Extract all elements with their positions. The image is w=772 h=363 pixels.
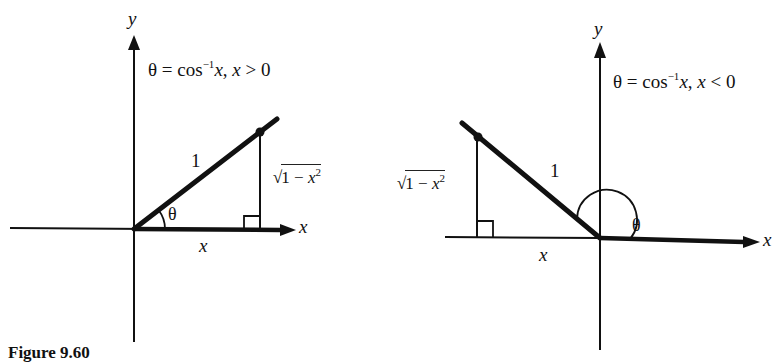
- right-x-axis: [445, 237, 600, 238]
- left-panel: [10, 35, 296, 342]
- right-y-axis-arrow-icon: [594, 42, 606, 58]
- right-angle-label: θ: [632, 215, 641, 236]
- left-x-axis-arrow-icon: [280, 224, 296, 236]
- eq-cond-var: x: [232, 59, 240, 80]
- left-adjacent-side: [134, 229, 280, 230]
- right-x-axis-arrow-icon: [743, 236, 760, 248]
- left-right-angle-marker: [244, 216, 260, 229]
- eq-cond: < 0: [706, 71, 736, 92]
- left-angle-arc: [159, 210, 166, 229]
- right-hypotenuse-label: 1: [550, 160, 560, 182]
- eq-arg: x: [214, 59, 222, 80]
- right-angle-arc: [577, 190, 637, 239]
- left-hypotenuse: [134, 119, 277, 229]
- right-adjacent-label: x: [539, 244, 547, 266]
- right-y-axis-label: y: [594, 18, 602, 40]
- eq-cond: > 0: [241, 59, 271, 80]
- radicand-body: 1 −: [281, 168, 308, 187]
- left-y-axis-label: y: [128, 8, 136, 30]
- left-y-axis-arrow-icon: [128, 35, 140, 50]
- left-x-axis-label: x: [299, 216, 307, 238]
- radicand-exp: 2: [439, 172, 445, 184]
- radicand-exp: 2: [315, 166, 321, 178]
- eq-sep: ,: [688, 71, 698, 92]
- eq-arg: x: [679, 71, 687, 92]
- right-x-axis-label: x: [763, 229, 771, 251]
- right-equation: θ = cos−1x, x < 0: [613, 70, 735, 93]
- radicand: 1 − x2: [405, 170, 445, 194]
- right-positive-x-axis: [600, 238, 744, 242]
- eq-cos: = cos: [157, 59, 203, 80]
- eq-superscript: −1: [668, 70, 680, 82]
- figure-caption: Figure 9.60: [8, 343, 90, 363]
- right-opposite-label: √1 − x2: [397, 170, 445, 194]
- radicand: 1 − x2: [281, 164, 321, 188]
- eq-cos: = cos: [622, 71, 668, 92]
- eq-superscript: −1: [203, 58, 215, 70]
- radicand-body: 1 −: [405, 174, 432, 193]
- left-opposite-label: √1 − x2: [273, 164, 321, 188]
- eq-theta: θ: [613, 71, 622, 92]
- left-angle-label: θ: [168, 204, 177, 225]
- eq-cond-var: x: [697, 71, 705, 92]
- left-adjacent-label: x: [199, 235, 207, 257]
- right-right-angle-marker: [477, 221, 493, 238]
- eq-sep: ,: [223, 59, 233, 80]
- left-equation: θ = cos−1x, x > 0: [148, 58, 270, 81]
- eq-theta: θ: [148, 59, 157, 80]
- left-hypotenuse-label: 1: [191, 150, 201, 172]
